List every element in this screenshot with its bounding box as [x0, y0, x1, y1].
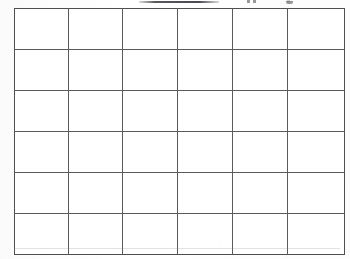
grid-cell[interactable] — [288, 173, 345, 214]
blank-grid-table — [14, 8, 345, 255]
grid-body — [15, 9, 345, 255]
grid-cell[interactable] — [69, 50, 123, 91]
grid-cell[interactable] — [123, 91, 178, 132]
grid-cell[interactable] — [233, 132, 288, 173]
grid-cell[interactable] — [233, 91, 288, 132]
table-row — [15, 9, 345, 50]
grid-cell[interactable] — [233, 9, 288, 50]
grid-cell[interactable] — [69, 91, 123, 132]
table-row — [15, 50, 345, 91]
grid-cell[interactable] — [15, 50, 69, 91]
grid-cell[interactable] — [15, 173, 69, 214]
grid-cell[interactable] — [15, 9, 69, 50]
table-row — [15, 132, 345, 173]
heading-letter-fragment — [253, 0, 256, 3]
grid-cell[interactable] — [288, 91, 345, 132]
grid-cell[interactable] — [15, 91, 69, 132]
heading-underline-rule — [139, 1, 219, 3]
sheet-edge-shadow — [14, 248, 340, 249]
grid-cell[interactable] — [15, 132, 69, 173]
grid-cell[interactable] — [123, 9, 178, 50]
grid-cell[interactable] — [178, 132, 233, 173]
grid-cell[interactable] — [123, 173, 178, 214]
grid-cell[interactable] — [178, 50, 233, 91]
grid-cell[interactable] — [288, 9, 345, 50]
grid-cell[interactable] — [178, 173, 233, 214]
grid-cell[interactable] — [178, 91, 233, 132]
grid-cell[interactable] — [288, 50, 345, 91]
grid-cell[interactable] — [123, 132, 178, 173]
table-row — [15, 91, 345, 132]
heading-letter-fragment — [287, 0, 290, 2]
grid-cell[interactable] — [288, 132, 345, 173]
grid-cell[interactable] — [233, 173, 288, 214]
heading-letter-fragment — [247, 0, 250, 3]
table-row — [15, 173, 345, 214]
grid-cell[interactable] — [178, 9, 233, 50]
grid-cell[interactable] — [123, 50, 178, 91]
grid-cell[interactable] — [69, 173, 123, 214]
grid-cell[interactable] — [69, 9, 123, 50]
clipped-heading — [0, 0, 350, 8]
grid-cell[interactable] — [233, 50, 288, 91]
grid-cell[interactable] — [69, 132, 123, 173]
